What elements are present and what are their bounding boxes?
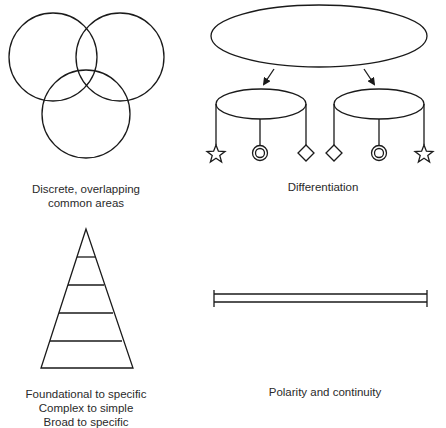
venn-circle-bottom (42, 70, 130, 158)
polarity-continuum (214, 290, 427, 307)
double-circle-outer-icon (372, 146, 387, 161)
caption-line: Polarity and continuity (260, 385, 390, 399)
hierarchy-caption: Foundational to specific Complex to simp… (21, 387, 151, 428)
caption-line: Discrete, overlapping (26, 182, 146, 196)
diagram-canvas (0, 0, 446, 428)
child-node-right (326, 89, 433, 162)
double-circle-outer-icon (253, 146, 268, 161)
differentiation-caption: Differentiation (268, 180, 378, 194)
double-circle-inner-icon (256, 149, 265, 158)
overlap-caption: Discrete, overlapping common areas (26, 182, 146, 210)
double-circle-inner-icon (375, 149, 384, 158)
venn-circle-right (76, 13, 164, 101)
differentiation-diagram (207, 5, 433, 162)
caption-line: Foundational to specific (21, 387, 151, 401)
diamond-icon (326, 145, 342, 161)
child-node-left (207, 89, 314, 162)
star-icon (207, 145, 225, 162)
triangle-outline (41, 229, 133, 368)
child-ellipse-left (216, 89, 306, 119)
caption-line: Differentiation (268, 180, 378, 194)
hierarchy-triangle (41, 229, 133, 368)
caption-line: common areas (26, 196, 146, 210)
parent-ellipse (211, 5, 427, 67)
caption-line: Broad to specific (21, 415, 151, 428)
arrow-left-icon (264, 69, 274, 84)
arrow-right-icon (364, 69, 374, 84)
venn-circle-left (9, 13, 97, 101)
star-icon (415, 145, 433, 162)
overlap-venn-diagram (9, 13, 164, 158)
caption-line: Complex to simple (21, 401, 151, 415)
child-ellipse-right (334, 89, 424, 119)
polarity-caption: Polarity and continuity (260, 385, 390, 399)
diamond-icon (298, 145, 314, 161)
